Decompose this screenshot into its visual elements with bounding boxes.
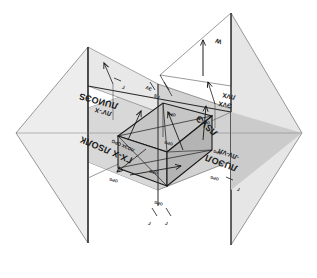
figure-canvas: ЛV'-X ЛUИOЭS ГS ЭV OPG ЭVX ЛVХ ЛSVЭ ГХ-Х… (0, 0, 317, 278)
technical-diagram: ЛV'-X ЛUИOЭS ГS ЭV OPG ЭVX ЛVХ ЛSVЭ ГХ-Х… (0, 0, 317, 278)
